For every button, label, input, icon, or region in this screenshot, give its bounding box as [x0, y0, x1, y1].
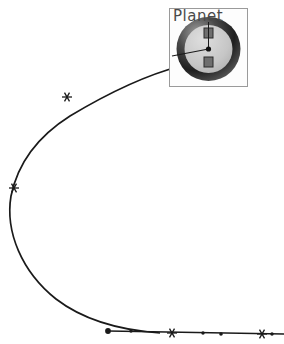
planet-inset-panel[interactable]: Planet — [169, 8, 248, 87]
star-marker-4 — [257, 330, 267, 339]
trajectory-curve — [10, 66, 181, 333]
tick-dot-1 — [129, 329, 132, 332]
endpoint-dot — [105, 328, 111, 334]
tick-dot-3 — [219, 332, 223, 336]
center-dot — [206, 46, 211, 51]
star-marker-1 — [62, 93, 72, 102]
star-marker-3 — [167, 329, 177, 338]
panel-label: Planet — [173, 7, 223, 25]
tick-dot-2 — [201, 331, 204, 334]
lower-square-marker — [204, 57, 213, 67]
tick-dot-4 — [270, 332, 273, 335]
figure-canvas: Planet — [0, 0, 284, 344]
